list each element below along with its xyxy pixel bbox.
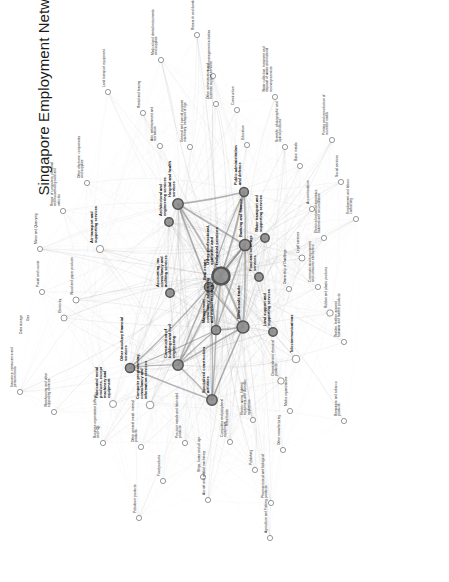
network-node[interactable] xyxy=(329,137,334,142)
network-node[interactable] xyxy=(158,57,163,62)
network-node[interactable] xyxy=(341,418,346,423)
network-node[interactable] xyxy=(353,216,358,221)
network-node[interactable] xyxy=(287,408,292,413)
network-node[interactable] xyxy=(173,199,183,209)
network-node[interactable] xyxy=(140,110,145,115)
network-node[interactable] xyxy=(292,355,300,363)
network-node[interactable] xyxy=(96,245,103,252)
network-node[interactable] xyxy=(17,389,22,394)
network-node[interactable] xyxy=(267,535,272,540)
network-node[interactable] xyxy=(268,500,273,505)
network-node[interactable] xyxy=(187,144,192,149)
network-node[interactable] xyxy=(125,363,134,372)
network-node[interactable] xyxy=(269,328,277,336)
network-node[interactable] xyxy=(297,163,302,168)
network-node[interactable] xyxy=(237,321,249,333)
network-node[interactable] xyxy=(244,142,249,147)
network-node[interactable] xyxy=(239,239,250,250)
network-node[interactable] xyxy=(227,439,232,444)
network-node[interactable] xyxy=(278,378,284,384)
network-node[interactable] xyxy=(240,188,249,197)
network-plot-area: Other professional, scientific and techn… xyxy=(0,0,449,582)
network-node[interactable] xyxy=(100,440,105,445)
network-node[interactable] xyxy=(213,268,230,285)
network-node[interactable] xyxy=(234,107,239,112)
network-node[interactable] xyxy=(213,101,218,106)
network-node[interactable] xyxy=(204,282,213,291)
network-node[interactable] xyxy=(194,32,199,37)
network-node[interactable] xyxy=(309,206,314,211)
network-node[interactable] xyxy=(84,180,89,185)
network-node[interactable] xyxy=(286,286,291,291)
network-node[interactable] xyxy=(51,409,56,414)
network-node[interactable] xyxy=(39,289,44,294)
network-nodes[interactable] xyxy=(0,0,449,582)
network-node[interactable] xyxy=(210,73,215,78)
network-node[interactable] xyxy=(182,440,187,445)
network-node[interactable] xyxy=(261,234,269,242)
network-node[interactable] xyxy=(321,235,326,240)
network-node[interactable] xyxy=(165,218,173,226)
network-node[interactable] xyxy=(341,339,346,344)
network-node[interactable] xyxy=(282,144,287,149)
network-node[interactable] xyxy=(299,255,305,261)
network-node[interactable] xyxy=(255,273,263,281)
network-node[interactable] xyxy=(272,94,277,99)
network-node[interactable] xyxy=(207,395,217,405)
network-node[interactable] xyxy=(157,143,162,148)
network-node[interactable] xyxy=(250,417,255,422)
network-node[interactable] xyxy=(205,497,210,502)
network-node[interactable] xyxy=(60,208,65,213)
network-node[interactable] xyxy=(166,289,174,297)
network-node[interactable] xyxy=(138,444,143,449)
network-node[interactable] xyxy=(211,325,220,334)
network-node[interactable] xyxy=(315,284,320,289)
network-node[interactable] xyxy=(280,447,285,452)
network-node[interactable] xyxy=(338,179,343,184)
network-node[interactable] xyxy=(37,246,42,251)
network-node[interactable] xyxy=(173,360,183,370)
network-node[interactable] xyxy=(327,310,333,316)
network-node[interactable] xyxy=(61,315,67,321)
network-node[interactable] xyxy=(200,474,205,479)
network-node[interactable] xyxy=(160,478,165,483)
network-node[interactable] xyxy=(146,401,154,409)
network-node[interactable] xyxy=(105,89,110,94)
network-node[interactable] xyxy=(73,297,79,303)
network-figure: Singapore Employment Network Other profe… xyxy=(0,0,449,582)
network-node[interactable] xyxy=(252,467,257,472)
network-node[interactable] xyxy=(136,515,141,520)
network-node[interactable] xyxy=(110,401,117,408)
